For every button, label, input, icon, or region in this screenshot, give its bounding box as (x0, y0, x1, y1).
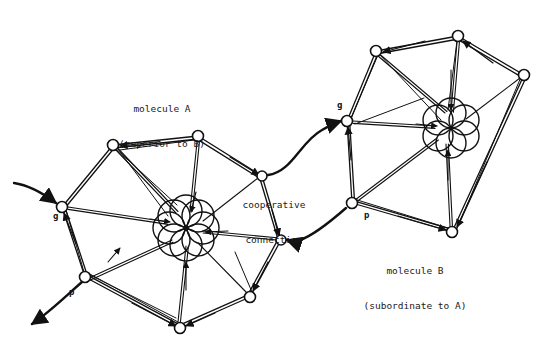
molecule-b-label-line1: molecule B (330, 265, 500, 277)
molecule-a-rosette (153, 195, 219, 261)
node-label-g-left: g (53, 211, 58, 221)
node-b1 (371, 46, 382, 57)
node-label-g-right: g (337, 100, 342, 110)
cooperative-connection-line1: cooperative (212, 199, 336, 211)
node-p-right (347, 198, 358, 209)
diagram-canvas: molecule A (superior to B) cooperative c… (0, 0, 548, 355)
molecule-b-label-line2: (subordinate to A) (330, 300, 500, 312)
node-g-right (342, 116, 353, 127)
node-b2 (453, 31, 464, 42)
free-tendril-out-of-p (32, 282, 82, 324)
cooperative-connection-upper (268, 121, 341, 175)
molecule-a-label-line2: (superior to B) (82, 138, 242, 150)
molecule-b-label: molecule B (subordinate to A) (330, 242, 500, 334)
node-a5 (245, 292, 256, 303)
node-b3 (519, 70, 530, 81)
molecule-b-spokes (353, 42, 520, 226)
node-p-left (80, 272, 91, 283)
node-label-p-left: p (69, 287, 74, 297)
molecule-a-label-line1: molecule A (82, 103, 242, 115)
free-tendril-into-g (14, 183, 56, 203)
molecule-b-rim-arrows (348, 41, 493, 230)
cooperative-connection-label: cooperative connection (212, 176, 336, 268)
cooperative-connection-line2: connection (212, 234, 336, 246)
molecule-a-spoke-arrows (108, 192, 228, 290)
molecule-b-spoke-arrows (416, 70, 451, 180)
node-b4 (447, 227, 458, 238)
node-a6 (175, 323, 186, 334)
molecule-a-label: molecule A (superior to B) (82, 80, 242, 172)
node-label-p-right: p (364, 210, 369, 220)
